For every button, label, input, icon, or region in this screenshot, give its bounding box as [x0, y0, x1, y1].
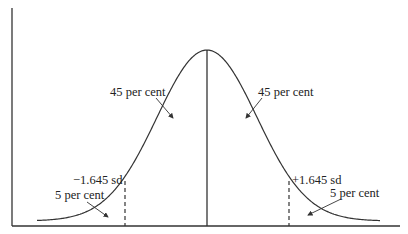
- right-center-area-label: 45 per cent: [258, 85, 314, 99]
- left-cutoff-label: −1.645 sd: [73, 173, 123, 187]
- left-tail-area-label: 5 per cent: [55, 188, 105, 202]
- right-tail-area-label: 5 per cent: [330, 186, 380, 200]
- left-center-area-label: 45 per cent: [110, 85, 166, 99]
- right-cutoff-label: +1.645 sd: [292, 173, 342, 187]
- arrow-right-center: [246, 98, 262, 118]
- normal-distribution-diagram: 45 per cent 45 per cent −1.645 sd +1.645…: [0, 0, 408, 234]
- arrow-right-tail: [308, 199, 341, 215]
